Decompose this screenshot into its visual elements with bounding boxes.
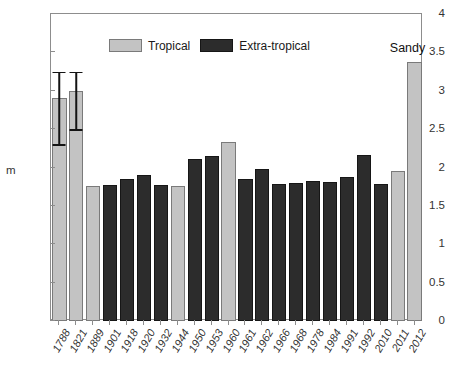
- y-tick-label-4: 4: [439, 7, 445, 19]
- error-bar-1788: [52, 72, 66, 145]
- y-tick-mark: [50, 205, 55, 206]
- legend-entry-extratropical[interactable]: Extra-tropical: [200, 39, 320, 53]
- bar-1950: [188, 159, 202, 321]
- y-tick-mark: [50, 282, 55, 283]
- x-tick-mark: [160, 320, 161, 325]
- chart-legend: TropicalExtra-tropical: [109, 36, 320, 55]
- bar-1889: [86, 186, 100, 321]
- error-bar-cap-lower: [70, 129, 83, 131]
- y-tick-mark: [50, 90, 55, 91]
- error-bar-stem: [59, 72, 61, 145]
- bar-1962: [255, 169, 269, 321]
- y-tick-mark: [50, 167, 55, 168]
- y-tick-mark: [50, 243, 55, 244]
- y-axis: [0, 0, 50, 365]
- x-tick-mark: [58, 320, 59, 325]
- x-tick-mark: [109, 320, 110, 325]
- y-tick-label-2: 2: [439, 161, 445, 173]
- bar-1984: [323, 182, 337, 321]
- x-tick-mark: [228, 320, 229, 325]
- x-tick-mark: [143, 320, 144, 325]
- y-tick-label-2.5: 2.5: [429, 122, 445, 134]
- bar-1918: [120, 179, 134, 321]
- bar-2010: [374, 184, 388, 321]
- error-bar-cap-upper: [70, 72, 83, 74]
- y-tick-label-3: 3: [439, 84, 445, 96]
- y-tick-label-1.5: 1.5: [429, 199, 445, 211]
- legend-label-tropical: Tropical: [148, 39, 190, 53]
- x-tick-mark: [126, 320, 127, 325]
- x-tick-mark: [211, 320, 212, 325]
- y-tick-mark: [50, 51, 55, 52]
- annotation-sandy: Sandy: [390, 41, 425, 55]
- bar-2012: [407, 62, 421, 321]
- x-tick-mark: [346, 320, 347, 325]
- legend-entry-tropical[interactable]: Tropical: [109, 39, 200, 53]
- x-tick-mark: [244, 320, 245, 325]
- y-axis-title: m: [6, 164, 16, 176]
- x-tick-mark: [177, 320, 178, 325]
- bar-1960: [221, 142, 235, 321]
- y-tick-mark: [50, 320, 55, 321]
- bar-1920: [137, 175, 151, 321]
- x-tick-mark: [329, 320, 330, 325]
- legend-label-extratropical: Extra-tropical: [239, 39, 310, 53]
- x-tick-mark: [397, 320, 398, 325]
- error-bar-cap-lower: [53, 144, 66, 146]
- bar-1944: [171, 186, 185, 321]
- error-bar-stem: [76, 72, 78, 130]
- error-bar-1821: [69, 72, 83, 130]
- bar-1953: [205, 156, 219, 321]
- legend-swatch-tropical: [109, 39, 142, 52]
- y-tick-mark: [50, 128, 55, 129]
- x-tick-mark: [295, 320, 296, 325]
- bar-1992: [357, 155, 371, 321]
- x-tick-mark: [380, 320, 381, 325]
- bar-1961: [238, 179, 252, 321]
- chart-figure: m TropicalExtra-tropical 00.511.522.533.…: [0, 0, 452, 365]
- bar-1978: [306, 181, 320, 321]
- x-tick-mark: [363, 320, 364, 325]
- x-tick-mark: [75, 320, 76, 325]
- x-tick-mark: [312, 320, 313, 325]
- x-tick-mark: [92, 320, 93, 325]
- bar-1968: [289, 183, 303, 321]
- bar-1966: [272, 184, 286, 321]
- y-tick-mark: [50, 13, 55, 14]
- bar-1932: [154, 185, 168, 321]
- legend-swatch-extratropical: [200, 39, 233, 52]
- bar-1991: [340, 177, 354, 321]
- bar-2011: [391, 171, 405, 321]
- bar-1901: [103, 185, 117, 321]
- y-tick-label-1: 1: [439, 237, 445, 249]
- y-tick-label-0.5: 0.5: [429, 276, 445, 288]
- plot-area: TropicalExtra-tropical: [50, 13, 422, 320]
- x-tick-mark: [278, 320, 279, 325]
- y-tick-label-0: 0: [439, 314, 445, 326]
- y-tick-label-3.5: 3.5: [429, 45, 445, 57]
- x-tick-mark: [194, 320, 195, 325]
- error-bar-cap-upper: [53, 72, 66, 74]
- x-tick-mark: [414, 320, 415, 325]
- x-tick-mark: [261, 320, 262, 325]
